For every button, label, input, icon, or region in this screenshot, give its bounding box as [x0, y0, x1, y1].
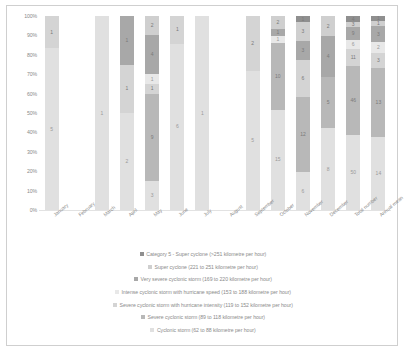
bar-segment[interactable]: 5: [246, 71, 260, 210]
legend-item[interactable]: Very severe cyclonic storm (169 to 220 k…: [7, 273, 399, 286]
chart-frame: 100%90%80%70%60%50%40%30%20%10%0% 151112…: [6, 5, 398, 346]
legend-label: Super cyclone (221 to 251 kilometre per …: [155, 264, 258, 270]
bar-segment[interactable]: 4: [321, 36, 335, 77]
stacked-bar[interactable]: 1: [195, 16, 209, 210]
legend-item[interactable]: Super cyclone (221 to 251 kilometre per …: [7, 261, 399, 274]
x-tick-slot: April: [114, 212, 139, 246]
bar-segment[interactable]: 11: [346, 49, 360, 66]
bar-segment[interactable]: 10: [271, 43, 285, 110]
stacked-bar[interactable]: [221, 16, 235, 210]
x-tick-slot: January: [39, 212, 64, 246]
x-tick-slot: August: [215, 212, 240, 246]
y-tick-label: 0%: [30, 207, 37, 213]
bar-slot: 16: [165, 16, 190, 210]
legend-swatch-icon: [134, 277, 138, 281]
bar-slot: 2111015: [265, 16, 290, 210]
bar-slot: 1: [190, 16, 215, 210]
bar-segment[interactable]: 5: [321, 77, 335, 128]
legend-item[interactable]: Category 5 - Super cyclone (>251 kilomet…: [7, 248, 399, 261]
stacked-bar[interactable]: 4396114650: [346, 16, 360, 210]
bar-segment[interactable]: 1: [170, 16, 184, 44]
legend-item[interactable]: Intense cyclonic storm with hurricane sp…: [7, 286, 399, 299]
bar-segment[interactable]: 4: [145, 35, 159, 74]
bar-slot: 112: [114, 16, 139, 210]
legend-swatch-icon: [141, 315, 145, 319]
bar-segment[interactable]: 1: [45, 16, 59, 48]
bar-segment[interactable]: 9: [145, 94, 159, 181]
bar-segment[interactable]: 6: [170, 44, 184, 210]
stacked-bar[interactable]: 02458: [321, 16, 335, 210]
bar-segment[interactable]: 3: [145, 181, 159, 210]
bar-segment[interactable]: 6: [296, 60, 310, 98]
bar-segment[interactable]: 1: [95, 16, 109, 210]
bar-segment[interactable]: 1: [195, 16, 209, 210]
bar-segment[interactable]: 3: [371, 26, 385, 42]
bar-slot: [215, 16, 240, 210]
legend-label: Severe cyclonic storm (89 to 118 kilomet…: [147, 314, 265, 320]
bars-container: 1511122411931612521110151336126024584396…: [39, 16, 391, 210]
x-tick-slot: July: [190, 212, 215, 246]
legend-swatch-icon: [113, 303, 117, 307]
bar-segment[interactable]: 2: [145, 16, 159, 35]
bar-segment[interactable]: 13: [371, 68, 385, 136]
legend-label: Intense cyclonic storm with hurricane sp…: [121, 289, 291, 295]
bar-segment[interactable]: 6: [296, 172, 310, 210]
bar-segment[interactable]: 3: [296, 41, 310, 60]
x-tick-slot: Total number: [341, 212, 366, 246]
y-tick-label: 70%: [27, 71, 37, 77]
bar-segment[interactable]: 9: [346, 27, 360, 41]
stacked-bar[interactable]: 241193: [145, 16, 159, 210]
legend-swatch-icon: [140, 252, 144, 256]
legend-item[interactable]: Severe cyclonic storm (89 to 118 kilomet…: [7, 311, 399, 324]
bar-segment[interactable]: 2: [371, 42, 385, 52]
y-tick-label: 20%: [27, 168, 37, 174]
x-tick-slot: December: [316, 212, 341, 246]
bar-segment[interactable]: 3: [296, 22, 310, 41]
legend-item[interactable]: Cyclonic storm (62 to 88 kilometre per h…: [7, 324, 399, 337]
stacked-bar[interactable]: 2111015: [271, 16, 285, 210]
y-tick-label: 40%: [27, 129, 37, 135]
bar-slot: 15: [39, 16, 64, 210]
stacked-bar[interactable]: 25: [246, 16, 260, 210]
legend-item[interactable]: Severe cyclonic storm with hurricane int…: [7, 298, 399, 311]
bar-segment[interactable]: 1: [271, 36, 285, 43]
bar-segment[interactable]: 1: [145, 84, 159, 94]
legend-label: Severe cyclonic storm with hurricane int…: [120, 302, 293, 308]
x-axis-tick-labels: JanuaryFebruaryMarchAprilMayJuneJulyAugu…: [39, 212, 391, 246]
bar-segment[interactable]: 2: [246, 16, 260, 71]
x-tick-slot: November: [290, 212, 315, 246]
x-tick-slot: Annual mean: [366, 212, 391, 246]
y-tick-label: 30%: [27, 149, 37, 155]
x-tick-slot: February: [64, 212, 89, 246]
bar-segment[interactable]: 6: [346, 40, 360, 49]
stacked-bar[interactable]: 1336126: [296, 16, 310, 210]
bar-slot: 02458: [316, 16, 341, 210]
stacked-bar[interactable]: 1: [95, 16, 109, 210]
y-axis-tick-labels: 100%90%80%70%60%50%40%30%20%10%0%: [11, 16, 37, 210]
bar-segment[interactable]: 2: [120, 113, 134, 210]
bar-segment[interactable]: 2: [271, 16, 285, 29]
bar-segment[interactable]: 1: [120, 16, 134, 65]
bar-segment[interactable]: 3: [371, 53, 385, 69]
bar-segment[interactable]: 8: [321, 128, 335, 210]
stacked-bar[interactable]: 15: [45, 16, 59, 210]
bar-segment[interactable]: 50: [346, 135, 360, 210]
bar-segment[interactable]: 15: [271, 110, 285, 210]
y-tick-label: 60%: [27, 91, 37, 97]
bar-segment[interactable]: 5: [45, 48, 59, 210]
stacked-bar[interactable]: [70, 16, 84, 210]
bar-segment[interactable]: 1: [271, 29, 285, 36]
legend-label: Very severe cyclonic storm (169 to 220 k…: [141, 276, 272, 282]
bar-slot: 4396114650: [341, 16, 366, 210]
legend-swatch-icon: [115, 290, 119, 294]
chart-legend: Category 5 - Super cyclone (>251 kilomet…: [7, 248, 399, 338]
x-tick-slot: March: [89, 212, 114, 246]
bar-segment[interactable]: 12: [296, 97, 310, 172]
bar-segment[interactable]: 1: [120, 65, 134, 114]
stacked-bar[interactable]: 113231314: [371, 16, 385, 210]
stacked-bar[interactable]: 16: [170, 16, 184, 210]
stacked-bar[interactable]: 112: [120, 16, 134, 210]
bar-segment[interactable]: 2: [321, 16, 335, 36]
bar-segment[interactable]: 1: [145, 74, 159, 84]
bar-segment[interactable]: 46: [346, 66, 360, 135]
